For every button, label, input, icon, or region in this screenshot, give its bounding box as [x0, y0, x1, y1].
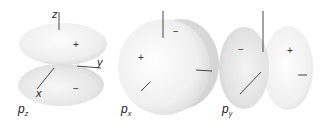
py-left-lobe — [219, 27, 269, 109]
px-back-sign: − — [173, 26, 179, 37]
py-left-sign: − — [238, 44, 244, 55]
py-right-sign: + — [287, 45, 293, 56]
y-axis-label: y — [96, 56, 104, 68]
p-orbitals-figure: z y x + − pz − + px − + py — [0, 0, 322, 121]
orbital-pz: z y x + − pz — [17, 8, 107, 117]
pz-lower-sign: − — [73, 83, 79, 94]
pz-upper-sign: + — [73, 39, 79, 50]
orbital-py: − + py — [219, 11, 313, 118]
py-right-lobe — [263, 26, 313, 110]
x-axis-label: x — [35, 87, 42, 99]
py-label: py — [221, 102, 233, 118]
pz-upper-lobe — [19, 23, 107, 65]
orbital-px: − + px — [118, 11, 219, 117]
px-label: px — [120, 102, 132, 117]
z-axis-label: z — [51, 8, 58, 20]
pz-label: pz — [17, 102, 29, 117]
px-front-lobe — [118, 19, 210, 115]
pz-lower-lobe — [18, 64, 104, 106]
px-front-sign: + — [138, 52, 144, 63]
